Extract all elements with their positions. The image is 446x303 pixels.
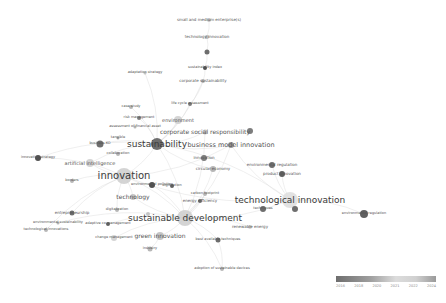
keyword-label[interactable]: adoption of sustainable devices: [194, 267, 250, 271]
keyword-label[interactable]: technology innovation: [185, 35, 230, 39]
legend-tick: 2018: [354, 284, 363, 288]
keyword-label[interactable]: sustainable development: [128, 214, 242, 223]
keyword-label[interactable]: sustainability: [127, 140, 187, 149]
network-edge: [145, 73, 157, 144]
keyword-label[interactable]: risk management: [124, 116, 155, 120]
legend-tick: 2021: [391, 284, 400, 288]
keyword-label[interactable]: small and medium enterprise(s): [177, 18, 241, 22]
keyword-label[interactable]: artificial intelligence: [65, 161, 116, 166]
legend-tick: 2020: [372, 284, 381, 288]
keyword-label[interactable]: borders: [65, 179, 78, 183]
keyword-label[interactable]: best available techniques: [196, 238, 241, 242]
keyword-label[interactable]: business KO: [89, 142, 110, 146]
keyword-label[interactable]: digitization: [162, 184, 181, 188]
keyword-label[interactable]: energy efficiency: [183, 199, 217, 203]
keyword-label[interactable]: adaptation strategy: [128, 71, 163, 75]
keyword-label[interactable]: innovation strategy: [21, 156, 55, 160]
keyword-label[interactable]: digitalization: [106, 208, 129, 212]
keyword-label[interactable]: technological innovation: [235, 196, 345, 205]
legend-tick: 2016: [336, 284, 345, 288]
keyword-label[interactable]: environmental regulation: [247, 163, 298, 167]
keyword-label[interactable]: case study: [122, 105, 141, 109]
keyword-label[interactable]: technological innovations: [24, 228, 69, 232]
legend-tick: 2024: [427, 284, 436, 288]
keyword-label[interactable]: technology: [116, 194, 149, 200]
keyword-node-tech_right_node[interactable]: [292, 206, 298, 212]
keyword-label[interactable]: entrepreneurship: [55, 211, 90, 215]
keyword-node-n_small1[interactable]: [205, 50, 210, 55]
legend-gradient-bar: [336, 276, 436, 282]
keyword-label[interactable]: product innovation: [263, 172, 301, 176]
keyword-label[interactable]: environment: [162, 118, 194, 123]
keyword-label[interactable]: assessment of financial asset: [109, 125, 161, 129]
keyword-label[interactable]: environmental regulation: [342, 212, 386, 216]
keyword-label[interactable]: environmental sustainability: [33, 221, 83, 225]
network-edge: [185, 218, 222, 269]
keyword-label[interactable]: carbon footprint: [191, 192, 219, 196]
keyword-label[interactable]: life cycle assessment: [171, 102, 208, 106]
keyword-label[interactable]: industry: [143, 247, 157, 251]
keyword-label[interactable]: renewable energy: [232, 225, 268, 229]
keyword-label[interactable]: tangible: [111, 136, 125, 140]
legend-ticks: 2016 2018 2020 2021 2022 2024: [336, 284, 436, 288]
network-edge: [157, 144, 185, 218]
keyword-label[interactable]: innovation: [98, 171, 151, 181]
legend-tick: 2022: [409, 284, 418, 288]
keyword-label[interactable]: business model innovation: [187, 142, 274, 149]
keyword-label[interactable]: sustainability index: [188, 66, 222, 70]
keyword-label[interactable]: green innovation: [135, 233, 186, 239]
year-legend: 2016 2018 2020 2021 2022 2024: [336, 276, 436, 288]
keyword-label[interactable]: collaboration: [107, 152, 130, 156]
keyword-label[interactable]: corporate sustainability: [179, 79, 226, 83]
keyword-label[interactable]: innovation: [193, 156, 214, 160]
keyword-label[interactable]: corporate social responsibility: [160, 129, 250, 135]
keyword-label[interactable]: circular economy: [196, 167, 230, 171]
keyword-label[interactable]: techniques: [253, 207, 272, 211]
keyword-label[interactable]: change management: [95, 236, 132, 240]
keyword-label[interactable]: adaptive co-management: [85, 222, 130, 226]
network-canvas[interactable]: [0, 0, 446, 303]
